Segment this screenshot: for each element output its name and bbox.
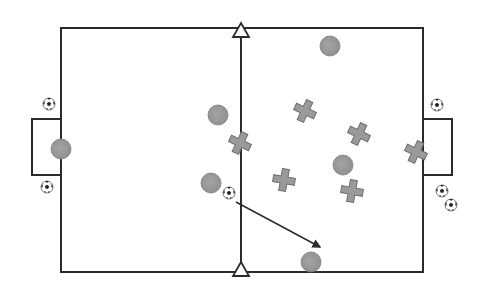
cone-icon [233,262,249,276]
soccer-ball-icon [223,187,235,199]
soccer-ball-icon [41,181,53,193]
field-lines [61,28,423,272]
drill-diagram [0,0,482,298]
soccer-ball-icon [43,98,55,110]
player-cross-icon [401,137,430,166]
player-circle-icon [201,173,221,193]
player-circle-icon [208,105,228,125]
goal-right [423,119,452,175]
cross-team-players [225,96,430,203]
pitch-canvas [0,0,482,298]
pass-arrows [236,202,320,247]
cone-icon [233,23,249,37]
player-cross-icon [290,96,319,125]
soccer-ball-icon [431,99,443,111]
pass-arrow [236,202,320,247]
player-circle-icon [301,252,321,272]
soccer-balls [41,98,457,211]
player-cross-icon [271,167,296,192]
player-cross-icon [344,119,373,148]
circle-team-players [51,36,353,272]
player-circle-icon [320,36,340,56]
soccer-ball-icon [445,199,457,211]
soccer-ball-icon [436,185,448,197]
player-circle-icon [333,155,353,175]
player-circle-icon [51,139,71,159]
player-cross-icon [339,178,364,203]
